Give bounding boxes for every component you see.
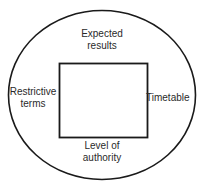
label-level-of-authority: Level of authority xyxy=(57,140,147,163)
diagram-canvas: Expected results Restrictive terms Timet… xyxy=(0,0,202,191)
label-expected-results: Expected results xyxy=(57,28,147,51)
label-restrictive-terms: Restrictive terms xyxy=(6,86,60,109)
inner-rectangle xyxy=(60,64,148,138)
label-timetable: Timetable xyxy=(146,92,198,104)
